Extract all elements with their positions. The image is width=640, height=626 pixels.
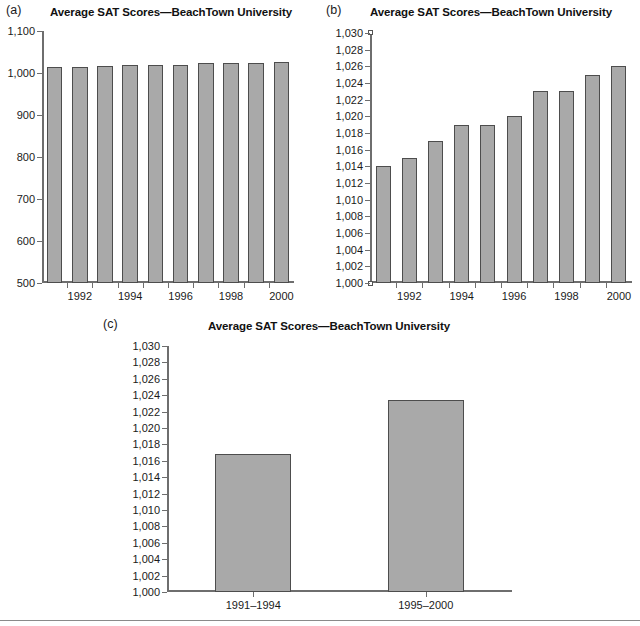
x-tick-label-a: 1992 bbox=[68, 290, 92, 302]
bar[interactable] bbox=[507, 116, 522, 283]
bar[interactable] bbox=[215, 454, 291, 592]
y-tick-b bbox=[365, 150, 370, 151]
y-tick-b bbox=[365, 133, 370, 134]
bar[interactable] bbox=[173, 65, 189, 283]
y-tick-c bbox=[162, 412, 167, 413]
y-tick-c bbox=[162, 592, 167, 593]
bar[interactable] bbox=[480, 125, 495, 283]
y-tick-label-b: 1,008 bbox=[335, 210, 363, 222]
plot-area-c: 1,0001,0021,0041,0061,0081,0101,0121,014… bbox=[167, 346, 512, 592]
y-tick-c bbox=[162, 510, 167, 511]
y-tick-label-a: 900 bbox=[17, 109, 35, 121]
y-tick-label-b: 1,002 bbox=[335, 260, 363, 272]
x-tick-a bbox=[193, 283, 194, 288]
y-tick-label-b: 1,022 bbox=[335, 94, 363, 106]
y-tick-label-c: 1,020 bbox=[132, 422, 160, 434]
y-tick-label-c: 1,000 bbox=[132, 586, 160, 598]
x-tick-label-c: 1991–1994 bbox=[226, 599, 281, 611]
bar[interactable] bbox=[428, 141, 443, 283]
x-tick-b bbox=[396, 283, 397, 288]
chart-title-a: Average SAT Scores—BeachTown University bbox=[50, 6, 292, 18]
x-tick-b bbox=[580, 283, 581, 288]
x-tick-b bbox=[501, 283, 502, 288]
y-tick-label-a: 500 bbox=[17, 277, 35, 289]
y-tick-label-c: 1,030 bbox=[132, 340, 160, 352]
bar[interactable] bbox=[223, 63, 239, 283]
y-tick-a bbox=[37, 73, 42, 74]
x-tick-label-b: 1994 bbox=[449, 290, 473, 302]
x-tick-label-a: 1998 bbox=[219, 290, 243, 302]
bar[interactable] bbox=[611, 66, 626, 283]
y-tick-b bbox=[365, 100, 370, 101]
x-tick-label-a: 1996 bbox=[168, 290, 192, 302]
y-tick-label-c: 1,012 bbox=[132, 488, 160, 500]
bar[interactable] bbox=[148, 65, 164, 283]
x-tick-a bbox=[168, 283, 169, 288]
y-tick-label-c: 1,004 bbox=[132, 553, 160, 565]
y-tick-label-a: 600 bbox=[17, 235, 35, 247]
bar[interactable] bbox=[274, 62, 290, 283]
chart-title-c: Average SAT Scores—BeachTown University bbox=[208, 320, 450, 332]
y-tick-label-b: 1,026 bbox=[335, 60, 363, 72]
bar[interactable] bbox=[533, 91, 548, 283]
y-tick-b bbox=[365, 66, 370, 67]
x-tick-a bbox=[92, 283, 93, 288]
y-tick-c bbox=[162, 395, 167, 396]
y-tick-b bbox=[365, 116, 370, 117]
y-tick-label-a: 700 bbox=[17, 193, 35, 205]
chart-panel-b: (b) Average SAT Scores—BeachTown Univers… bbox=[320, 0, 640, 310]
y-tick-label-c: 1,014 bbox=[132, 471, 160, 483]
x-tick-label-b: 1992 bbox=[397, 290, 421, 302]
bar[interactable] bbox=[72, 67, 88, 283]
bar[interactable] bbox=[559, 91, 574, 283]
y-tick-c bbox=[162, 494, 167, 495]
y-tick-label-c: 1,028 bbox=[132, 356, 160, 368]
y-tick-label-c: 1,016 bbox=[132, 455, 160, 467]
y-tick-label-b: 1,020 bbox=[335, 110, 363, 122]
bar[interactable] bbox=[585, 75, 600, 283]
y-tick-b bbox=[365, 50, 370, 51]
x-tick-a bbox=[218, 283, 219, 288]
bar[interactable] bbox=[97, 66, 113, 283]
bar[interactable] bbox=[402, 158, 417, 283]
y-tick-a bbox=[37, 241, 42, 242]
plot-area-b: 1,0001,0021,0041,0061,0081,0101,0121,014… bbox=[370, 33, 632, 283]
x-tick-b bbox=[553, 283, 554, 288]
x-tick-c bbox=[253, 592, 254, 597]
bar[interactable] bbox=[47, 67, 63, 283]
x-tick-b bbox=[475, 283, 476, 288]
y-tick-b bbox=[365, 233, 370, 234]
x-tick-label-b: 1996 bbox=[502, 290, 526, 302]
y-tick-c bbox=[162, 461, 167, 462]
y-tick-c bbox=[162, 477, 167, 478]
y-tick-label-c: 1,006 bbox=[132, 537, 160, 549]
x-tick-a bbox=[118, 283, 119, 288]
y-tick-label-b: 1,024 bbox=[335, 77, 363, 89]
y-axis-line-b bbox=[370, 33, 372, 283]
y-tick-c bbox=[162, 526, 167, 527]
y-tick-b bbox=[365, 166, 370, 167]
bar[interactable] bbox=[198, 63, 214, 283]
y-tick-b bbox=[365, 283, 370, 284]
x-tick-label-b: 2000 bbox=[607, 290, 631, 302]
y-tick-label-c: 1,018 bbox=[132, 438, 160, 450]
y-tick-c bbox=[162, 576, 167, 577]
y-tick-b bbox=[365, 33, 370, 34]
bar[interactable] bbox=[388, 400, 464, 592]
chart-panel-c: (c) Average SAT Scores—BeachTown Univers… bbox=[0, 312, 640, 612]
y-tick-label-c: 1,008 bbox=[132, 520, 160, 532]
x-tick-label-c: 1995–2000 bbox=[398, 599, 453, 611]
bar[interactable] bbox=[248, 63, 264, 284]
bar[interactable] bbox=[454, 125, 469, 283]
x-tick-label-a: 1994 bbox=[118, 290, 142, 302]
y-tick-label-c: 1,022 bbox=[132, 406, 160, 418]
panel-letter-c: (c) bbox=[103, 317, 118, 331]
panel-letter-b: (b) bbox=[326, 3, 342, 17]
y-tick-label-c: 1,002 bbox=[132, 570, 160, 582]
y-tick-label-b: 1,000 bbox=[335, 277, 363, 289]
y-tick-b bbox=[365, 216, 370, 217]
bar[interactable] bbox=[376, 166, 391, 283]
chart-title-b: Average SAT Scores—BeachTown University bbox=[370, 6, 612, 18]
bar[interactable] bbox=[122, 65, 138, 283]
x-tick-label-a: 2000 bbox=[269, 290, 293, 302]
